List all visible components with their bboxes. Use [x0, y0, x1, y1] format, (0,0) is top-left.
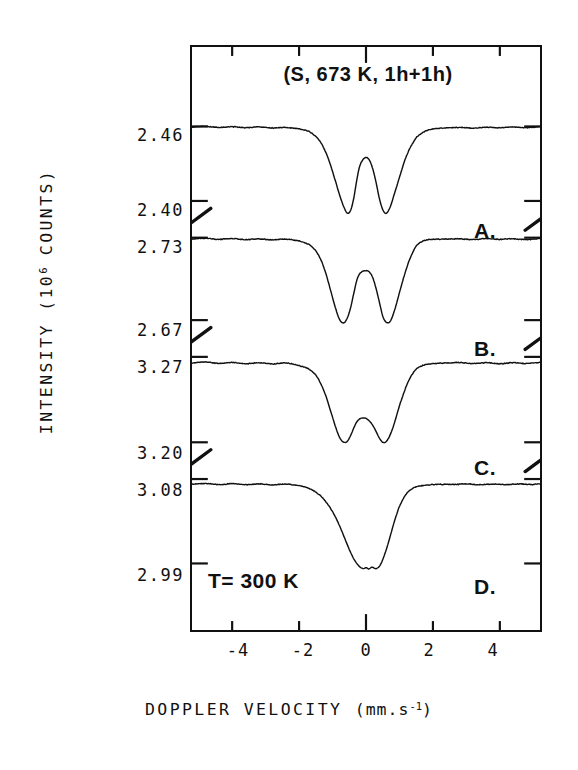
spectrum-curve-b	[192, 238, 540, 323]
x-tick-label-4: 4	[473, 640, 513, 660]
axis-break-mark-left-2	[192, 450, 211, 472]
axis-break-mark-left-0	[192, 208, 211, 230]
y-axis-title-exponent: 6	[37, 268, 49, 274]
y-tick-label-group: 2.46 2.40 2.73 2.67 3.27 3.20 3.08 2.99	[88, 45, 184, 632]
x-axis-unit-close: )	[422, 700, 433, 719]
axis-break-mark-right-1	[525, 328, 540, 350]
x-tick-label-0: 0	[346, 640, 386, 660]
x-axis-title-main: DOPPLER VELOCITY	[145, 700, 355, 719]
x-axis-unit-exponent: -1	[409, 700, 422, 712]
y-tick-label-a-top: 2.46	[94, 125, 184, 145]
spectrum-curve-d	[192, 483, 540, 569]
y-tick-label-b-top: 2.73	[94, 237, 184, 257]
y-axis-title: INTENSITY (106 COUNTS)	[37, 42, 56, 562]
y-tick-label-b-bottom: 2.67	[94, 320, 184, 340]
y-axis-title-main: INTENSITY (10	[37, 274, 56, 434]
y-tick-label-d-bottom: 2.99	[94, 565, 184, 585]
x-tick-label--4: -4	[218, 640, 258, 660]
x-tick-label--2: -2	[283, 640, 323, 660]
axis-break-mark-right-0	[525, 208, 540, 230]
spectra-canvas	[192, 47, 540, 630]
y-tick-label-a-bottom: 2.40	[94, 200, 184, 220]
plot-frame: (S, 673 K, 1h+1h) A. B. C. D. T= 300 K	[190, 45, 542, 632]
spectrum-curve-a	[192, 126, 540, 213]
spectrum-curve-c	[192, 362, 540, 443]
axis-break-mark-left-1	[192, 328, 211, 350]
axis-break-mark-right-2	[525, 450, 540, 472]
y-tick-label-c-bottom: 3.20	[94, 443, 184, 463]
x-axis-title: DOPPLER VELOCITY (mm.s-1)	[0, 700, 578, 719]
y-tick-label-c-top: 3.27	[94, 357, 184, 377]
y-axis-title-tail: COUNTS)	[37, 169, 56, 268]
y-tick-label-d-top: 3.08	[94, 480, 184, 500]
x-tick-label-2: 2	[409, 640, 449, 660]
mossbauer-figure: INTENSITY (106 COUNTS) 2.46 2.40 2.73 2.…	[0, 0, 578, 770]
x-axis-unit-open: (mm.s	[355, 700, 410, 719]
